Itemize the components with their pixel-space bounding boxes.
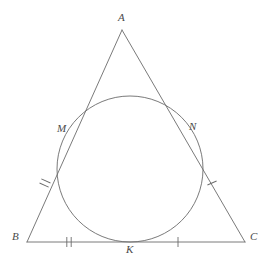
segment-ac (122, 30, 245, 242)
geometry-canvas (0, 0, 271, 265)
tick-bm-double (40, 179, 51, 187)
tangent-point-label-n: N (189, 121, 196, 132)
geometry-figure: A B C M N K (0, 0, 271, 265)
vertex-label-a: A (118, 12, 125, 23)
tick-stroke (40, 183, 49, 187)
tick-stroke (41, 179, 50, 183)
tick-marks-group (40, 179, 217, 247)
segment-ab (27, 30, 122, 242)
vertex-label-c: C (250, 231, 257, 242)
inscribed-circle (57, 96, 203, 242)
triangle-abc (27, 30, 245, 242)
tangent-point-label-k: K (126, 244, 133, 255)
vertex-label-b: B (12, 231, 19, 242)
tangent-point-label-m: M (57, 123, 66, 134)
